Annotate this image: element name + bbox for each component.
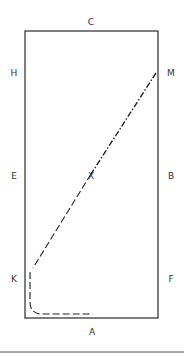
marker-k: K bbox=[11, 274, 18, 284]
marker-h: H bbox=[11, 68, 18, 78]
arena-diagram: C H M E X B K F A bbox=[0, 0, 184, 356]
marker-a: A bbox=[89, 327, 96, 337]
diagonal-path-upper bbox=[91, 73, 156, 174]
marker-x: X bbox=[88, 171, 94, 181]
diagonal-path-lower bbox=[33, 174, 91, 268]
marker-c: C bbox=[88, 17, 94, 27]
marker-e: E bbox=[11, 171, 17, 181]
corner-path bbox=[30, 272, 93, 314]
marker-b: B bbox=[168, 171, 174, 181]
marker-m: M bbox=[167, 68, 175, 78]
marker-f: F bbox=[168, 274, 173, 284]
